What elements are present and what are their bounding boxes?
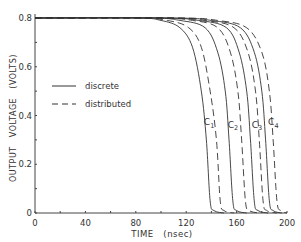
y-tick-label: 0.6	[18, 62, 32, 72]
y-tick-label: 0	[27, 208, 32, 218]
x-tick-label: 40	[80, 218, 91, 228]
curve-label: C2	[228, 120, 238, 133]
legend-label-discrete: discrete	[85, 81, 119, 91]
x-tick-label: 80	[130, 218, 141, 228]
chart: 0408012016020000.20.40.60.8 C1C2C3C4 dis…	[0, 0, 301, 242]
x-tick-label: 120	[178, 218, 194, 228]
x-tick-label: 160	[228, 218, 244, 228]
series-line	[35, 18, 224, 213]
series-line	[35, 18, 268, 213]
curve-label: C4	[268, 117, 278, 130]
y-tick-label: 0.4	[18, 111, 32, 121]
series-line	[35, 18, 277, 213]
legend-label-distributed: distributed	[85, 99, 131, 109]
series-group	[35, 18, 287, 213]
x-axis-label: TIME (nsec)	[130, 229, 192, 239]
series-line	[35, 18, 282, 213]
curve-label: C3	[252, 120, 262, 133]
y-tick-label: 0.2	[18, 159, 32, 169]
series-line	[35, 18, 247, 213]
y-tick-label: 0.8	[18, 13, 32, 23]
x-tick-label: 0	[32, 218, 37, 228]
x-tick-label: 200	[279, 218, 295, 228]
y-axis-label: OUTPUT VOLTAGE (VOLTS)	[9, 54, 18, 182]
legend: discrete distributed	[52, 81, 131, 109]
series-line	[35, 18, 259, 213]
